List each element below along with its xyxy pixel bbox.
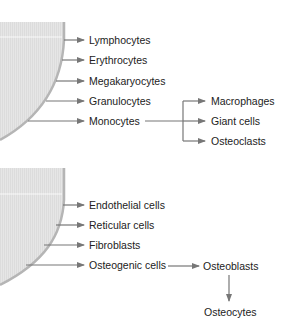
label-granulocytes: Granulocytes	[89, 95, 151, 107]
label-endothelial-cells: Endothelial cells	[89, 199, 165, 211]
label-lymphocytes: Lymphocytes	[89, 34, 150, 46]
stromal-stem-region	[0, 168, 64, 285]
label-osteocytes: Osteocytes	[204, 306, 257, 318]
label-macrophages: Macrophages	[211, 95, 275, 107]
label-osteoclasts: Osteoclasts	[211, 135, 266, 147]
hematopoietic-stem-region	[0, 22, 64, 140]
lineage-diagram	[0, 0, 299, 321]
label-erythrocytes: Erythrocytes	[89, 54, 147, 66]
label-giant-cells: Giant cells	[211, 115, 260, 127]
label-osteogenic-cells: Osteogenic cells	[89, 259, 166, 271]
label-reticular-cells: Reticular cells	[89, 219, 154, 231]
label-megakaryocytes: Megakaryocytes	[89, 75, 165, 87]
label-fibroblasts: Fibroblasts	[89, 239, 140, 251]
label-osteoblasts: Osteoblasts	[203, 260, 258, 272]
label-monocytes: Monocytes	[89, 115, 140, 127]
